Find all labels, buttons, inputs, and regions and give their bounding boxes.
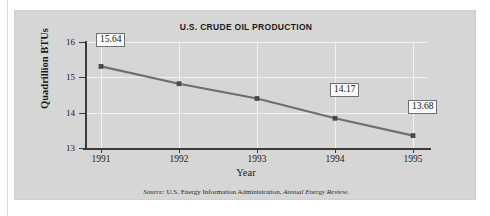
y-axis-label: Quadrillion BTUs [39, 14, 50, 124]
plot-area [87, 42, 427, 148]
page-left-rule [7, 0, 8, 216]
value-callout-1991: 15.64 [96, 33, 125, 47]
chart-title: U.S. CRUDE OIL PRODUCTION [15, 22, 477, 32]
x-tick-mark-1995 [413, 148, 414, 153]
source-terminator: . [347, 188, 349, 196]
x-tick-mark-1993 [257, 148, 258, 153]
value-callout-1994: 14.17 [330, 83, 359, 97]
x-axis-label: Year [15, 167, 477, 178]
x-tick-mark-1992 [179, 148, 180, 153]
y-tick-label-14: 14 [55, 108, 75, 118]
y-tick-label-13: 13 [55, 143, 75, 153]
figure-container: U.S. CRUDE OIL PRODUCTION Quadrillion BT… [0, 0, 490, 216]
data-point-1994 [333, 116, 338, 121]
x-tick-label-1994: 1994 [315, 154, 355, 164]
y-tick-label-15: 15 [55, 72, 75, 82]
source-agency: U.S. Energy Information Administration, [165, 188, 283, 196]
x-tick-mark-1991 [101, 148, 102, 153]
x-tick-label-1992: 1992 [159, 154, 199, 164]
x-tick-label-1995: 1995 [393, 154, 433, 164]
data-series-line [87, 42, 427, 148]
x-tick-label-1993: 1993 [237, 154, 277, 164]
data-point-1991 [99, 64, 104, 69]
data-point-1995 [411, 133, 416, 138]
data-point-1992 [177, 81, 182, 86]
data-point-1993 [255, 96, 260, 101]
source-key: Source: [143, 188, 165, 196]
source-note: Source: U.S. Energy Information Administ… [15, 188, 477, 196]
y-axis-line [85, 41, 87, 149]
y-tick-label-16: 16 [55, 37, 75, 47]
x-tick-mark-1994 [335, 148, 336, 153]
x-tick-label-1991: 1991 [81, 154, 121, 164]
chart-panel: U.S. CRUDE OIL PRODUCTION Quadrillion BT… [14, 10, 476, 200]
value-callout-1995: 13.68 [408, 100, 437, 114]
source-publication: Annual Energy Review [283, 188, 347, 196]
